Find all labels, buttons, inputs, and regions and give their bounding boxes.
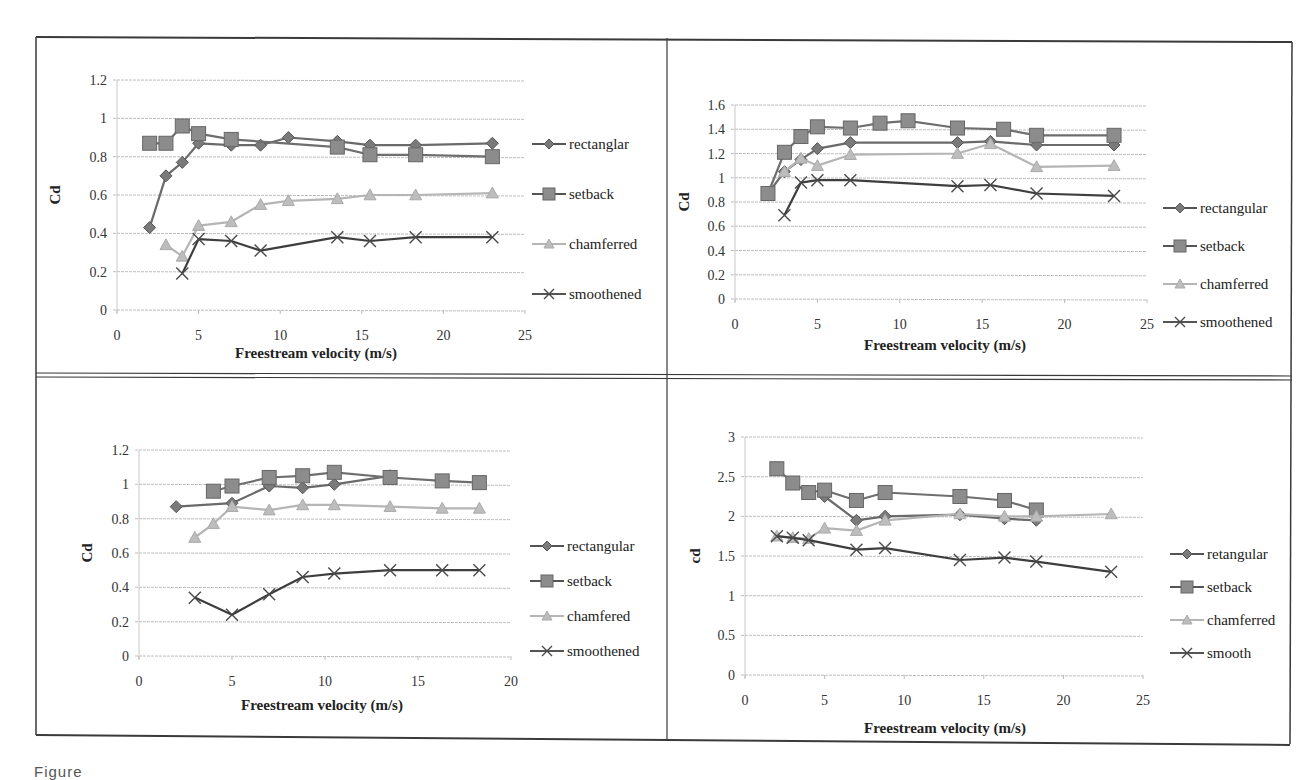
legend-label: smoothened xyxy=(1200,314,1273,330)
x-tick-label: 25 xyxy=(518,328,532,343)
y-tick-label: 0.8 xyxy=(708,195,726,210)
x-axis-title: Freestream velocity (m/s) xyxy=(241,697,403,714)
chart-top-left: 00.20.40.60.811.20510152025Freestream ve… xyxy=(47,73,642,362)
legend-label: smoothened xyxy=(569,286,642,302)
setback-marker-icon xyxy=(849,493,863,507)
legend-item-chamferred: chamferred xyxy=(1170,612,1276,628)
smoothened-marker-icon xyxy=(189,592,201,604)
chamferred-marker-icon xyxy=(160,239,172,250)
legend-setback-marker-icon xyxy=(1181,581,1193,593)
legend-label: rectangular xyxy=(1200,200,1267,216)
setback-marker-icon xyxy=(143,136,157,150)
x-tick-label: 20 xyxy=(504,674,518,689)
legend: rectangularsetbackchamferedsmoothened xyxy=(530,538,640,659)
y-tick-label: 1.5 xyxy=(718,549,736,564)
setback-marker-icon xyxy=(950,121,964,135)
y-tick-label: 0.2 xyxy=(112,615,130,630)
legend-label: smooth xyxy=(1207,645,1252,661)
rectanglar-marker-icon xyxy=(486,137,498,149)
x-tick-label: 5 xyxy=(821,693,828,708)
rectanglar-marker-icon xyxy=(144,222,156,234)
legend-label: retangular xyxy=(1207,546,1268,562)
x-tick-label: 0 xyxy=(742,693,749,708)
y-tick-label: 0.2 xyxy=(708,268,726,283)
legend: rectanglarsetbackchamferredsmoothened xyxy=(532,136,642,302)
legend-item-setback: setback xyxy=(532,186,614,202)
y-tick-label: 0 xyxy=(728,668,735,683)
x-axis-title: Freestream velocity (m/s) xyxy=(864,720,1026,737)
legend-setback-marker-icon xyxy=(1174,240,1186,252)
y-tick-label: 0.4 xyxy=(708,244,726,259)
series-chamfered xyxy=(189,499,486,542)
x-tick-label: 15 xyxy=(355,328,369,343)
y-tick-label: 0 xyxy=(718,292,725,307)
rectangular-marker-icon xyxy=(170,501,182,513)
setback-marker-icon xyxy=(175,119,189,133)
y-tick-label: 0.2 xyxy=(90,265,108,280)
x-axis-title: Freestream velocity (m/s) xyxy=(864,337,1026,354)
x-tick-label: 10 xyxy=(318,674,332,689)
setback-marker-icon xyxy=(761,187,775,201)
chart-bottom-left: 00.20.40.60.811.205101520Freestream velo… xyxy=(79,443,640,714)
x-tick-label: 10 xyxy=(897,693,911,708)
setback-marker-icon xyxy=(262,470,276,484)
y-tick-label: 0.5 xyxy=(718,628,736,643)
legend-item-smoothened: smoothened xyxy=(1163,314,1273,330)
rectangular-marker-icon xyxy=(297,482,309,494)
setback-marker-icon xyxy=(818,483,832,497)
rectanglar-marker-icon xyxy=(282,132,294,144)
setback-marker-icon xyxy=(786,476,800,490)
legend-item-rectanglar: rectanglar xyxy=(532,136,629,152)
x-tick-label: 0 xyxy=(136,674,143,689)
setback-marker-icon xyxy=(997,122,1011,136)
legend-label: chamferred xyxy=(1200,276,1269,292)
y-tick-label: 1 xyxy=(100,111,107,126)
setback-marker-icon xyxy=(802,486,816,500)
x-tick-label: 20 xyxy=(1056,693,1070,708)
setback-marker-icon xyxy=(794,130,808,144)
setback-marker-icon xyxy=(472,476,486,490)
smoothened-marker-icon xyxy=(778,209,790,221)
legend-item-setback: setback xyxy=(530,573,612,589)
series-smooth xyxy=(771,530,1117,578)
series-smoothened xyxy=(778,174,1120,221)
x-tick-label: 15 xyxy=(411,674,425,689)
y-tick-label: 2 xyxy=(728,509,735,524)
y-tick-label: 0.6 xyxy=(112,546,130,561)
legend-label: rectanglar xyxy=(569,136,629,152)
legend-label: setback xyxy=(1207,579,1252,595)
setback-marker-icon xyxy=(192,127,206,141)
setback-marker-icon xyxy=(770,462,784,476)
y-tick-label: 1 xyxy=(718,171,725,186)
setback-marker-icon xyxy=(953,490,967,504)
figure-caption: Figure xyxy=(34,763,83,780)
y-tick-label: 1.2 xyxy=(90,73,108,88)
y-tick-label: 0.4 xyxy=(90,226,108,241)
setback-marker-icon xyxy=(901,114,915,128)
setback-marker-icon xyxy=(997,493,1011,507)
legend-rectangular-marker-icon xyxy=(542,541,552,551)
setback-marker-icon xyxy=(409,148,423,162)
y-axis-title: cd xyxy=(687,548,703,564)
legend-retangular-marker-icon xyxy=(1182,549,1192,559)
legend-rectangular-marker-icon xyxy=(1175,203,1185,213)
legend-item-setback: setback xyxy=(1170,579,1252,595)
x-axis-title: Freestream velocity (m/s) xyxy=(235,345,397,362)
legend-label: setback xyxy=(569,186,614,202)
y-axis-title: Cd xyxy=(47,185,63,205)
y-tick-label: 1.4 xyxy=(708,122,726,137)
setback-marker-icon xyxy=(1030,128,1044,142)
legend-label: smoothened xyxy=(567,643,640,659)
x-tick-label: 5 xyxy=(814,317,821,332)
setback-marker-icon xyxy=(435,474,449,488)
y-tick-label: 3 xyxy=(728,430,735,445)
setback-marker-icon xyxy=(873,116,887,130)
legend-item-chamfered: chamfered xyxy=(530,608,631,624)
legend-label: setback xyxy=(567,573,612,589)
setback-marker-icon xyxy=(363,148,377,162)
legend-label: chamfered xyxy=(567,608,631,624)
x-tick-label: 5 xyxy=(195,328,202,343)
smoothened-marker-icon xyxy=(176,268,188,280)
setback-marker-icon xyxy=(843,121,857,135)
setback-marker-icon xyxy=(206,484,220,498)
